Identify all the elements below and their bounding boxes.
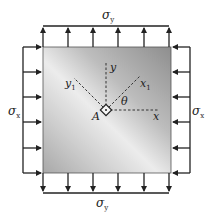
sigma-y-top-label: σy <box>102 8 114 24</box>
axis-y-label: y <box>109 61 117 74</box>
bottom-stress-arrows <box>43 173 169 193</box>
sigma-x-right-label: σx <box>192 104 204 120</box>
stress-diagram: σy σy σx σx y x x1 y1 θ A <box>0 0 210 213</box>
angle-theta-label: θ <box>121 95 128 108</box>
axis-x-label: x <box>153 110 160 123</box>
left-stress-arrows <box>23 47 41 173</box>
top-stress-arrows <box>43 26 169 47</box>
sigma-y-bottom-label: σy <box>96 196 108 212</box>
point-a-dot <box>105 109 107 111</box>
right-stress-arrows <box>173 47 190 173</box>
point-a-label: A <box>91 110 100 123</box>
sigma-x-left-label: σx <box>8 104 20 120</box>
